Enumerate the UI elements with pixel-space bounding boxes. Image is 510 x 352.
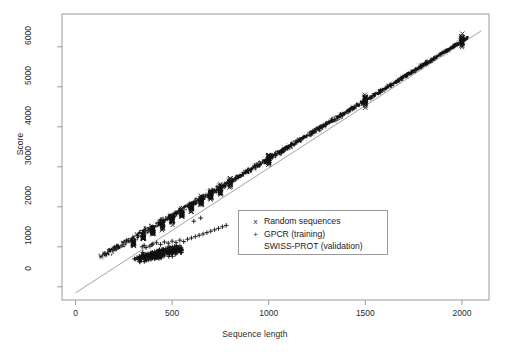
y-tick-label: 3000	[23, 146, 33, 186]
axis-tick-marks	[57, 47, 462, 305]
legend-marker-cross-icon: x	[247, 216, 264, 229]
legend-marker-plus-icon: +	[247, 229, 264, 242]
series-gpcr-training	[132, 216, 228, 265]
legend-item: xRandom sequences	[239, 215, 387, 228]
legend-item: SWISS-PROT (validation)	[239, 240, 387, 253]
y-tick-label: 0	[23, 266, 33, 306]
y-tick-label: 1000	[23, 226, 33, 266]
legend-item: +GPCR (training)	[239, 228, 387, 241]
legend-item-list: xRandom sequences+GPCR (training)SWISS-P…	[239, 211, 387, 258]
y-tick-label: 6000	[23, 26, 33, 66]
y-tick-label: 2000	[23, 186, 33, 226]
scatter-plot-figure: Score Sequence length 050010001500200001…	[0, 0, 510, 352]
legend-label: SWISS-PROT (validation)	[264, 240, 363, 253]
y-tick-label: 4000	[23, 106, 33, 146]
plot-canvas	[0, 0, 510, 352]
x-tick-label: 2000	[437, 308, 487, 318]
legend-label: GPCR (training)	[264, 228, 325, 241]
legend-label: Random sequences	[264, 215, 340, 228]
y-tick-label: 5000	[23, 66, 33, 106]
x-tick-label: 500	[147, 308, 197, 318]
chart-legend: xRandom sequences+GPCR (training)SWISS-P…	[238, 210, 388, 255]
x-tick-label: 1000	[244, 308, 294, 318]
x-axis-title: Sequence length	[0, 329, 510, 339]
x-tick-label: 1500	[340, 308, 390, 318]
x-tick-label: 0	[51, 308, 101, 318]
